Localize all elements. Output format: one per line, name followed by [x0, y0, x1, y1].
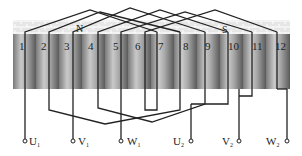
slot-number: 5	[113, 40, 119, 52]
slot-number: 7	[158, 40, 164, 52]
coil-bottom-connections	[25, 89, 287, 139]
svg-text:V1: V1	[78, 135, 89, 148]
slot-number: 10	[228, 40, 240, 52]
stator-slots	[13, 34, 290, 89]
terminals: U1 V1 W1 U2 V2 W2	[23, 135, 289, 148]
winding-diagram: 1 2 3 4 5 6 7 8 9 10 11 12 N S	[0, 0, 302, 156]
terminal-w2	[285, 139, 289, 143]
slot-number: 4	[88, 40, 94, 52]
slot-number: 6	[135, 40, 141, 52]
slot-number: 11	[252, 40, 263, 52]
terminal-label: W	[266, 135, 277, 147]
terminal-label: W	[127, 135, 138, 147]
pole-label-s: S	[222, 24, 228, 35]
slot-number: 9	[205, 40, 211, 52]
svg-text:U1: U1	[29, 135, 40, 148]
svg-text:V2: V2	[222, 135, 233, 148]
terminal-v2	[237, 139, 241, 143]
terminal-label: U	[29, 135, 37, 147]
slot-number: 1	[19, 40, 25, 52]
terminal-v1	[71, 139, 75, 143]
svg-text:U2: U2	[173, 135, 184, 148]
terminal-label: V	[78, 135, 86, 147]
slot-number: 3	[64, 40, 70, 52]
terminal-u2	[189, 139, 193, 143]
slot-number: 8	[183, 40, 189, 52]
terminal-label: U	[173, 135, 181, 147]
terminal-u1	[23, 139, 27, 143]
svg-text:W1: W1	[127, 135, 140, 148]
terminal-label: V	[222, 135, 230, 147]
terminal-w1	[119, 139, 123, 143]
svg-text:W2: W2	[266, 135, 279, 148]
slot-number: 2	[41, 40, 47, 52]
